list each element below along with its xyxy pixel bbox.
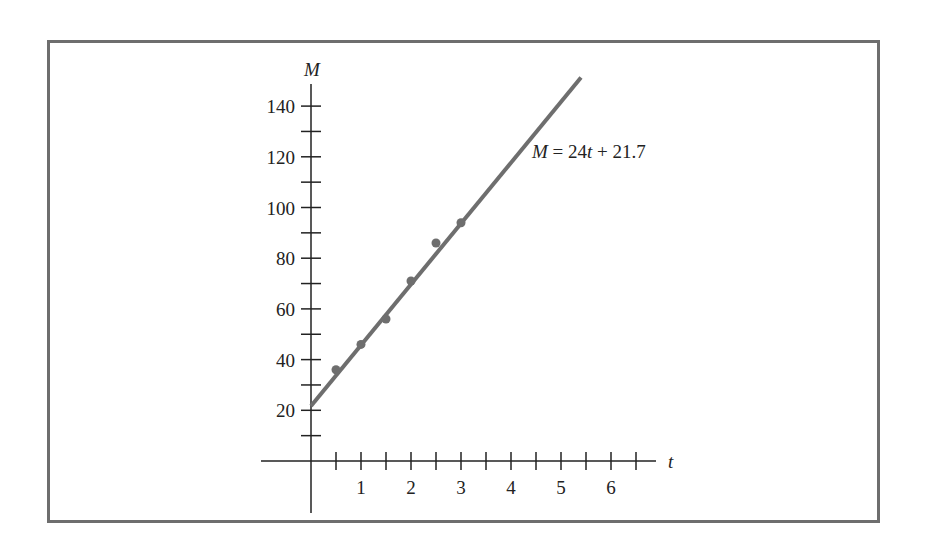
x-axis-label: t: [668, 451, 674, 472]
fit-line: [311, 77, 581, 406]
x-tick-label: 6: [606, 477, 616, 498]
data-point: [357, 340, 366, 349]
y-tick-label: 100: [267, 198, 296, 219]
y-axis-label: M: [303, 59, 321, 80]
data-point: [382, 315, 391, 324]
y-tick-label: 140: [267, 96, 296, 117]
equation-label: M = 24t + 21.7: [531, 141, 646, 162]
y-tick-label: 80: [276, 248, 295, 269]
regression-line: [311, 77, 581, 406]
data-point: [432, 238, 441, 247]
x-tick-label: 3: [456, 477, 466, 498]
y-tick-label: 120: [267, 147, 296, 168]
y-tick-label: 60: [276, 299, 295, 320]
x-tick-label: 4: [506, 477, 516, 498]
equation-m: M: [531, 141, 549, 162]
x-tick-label: 5: [556, 477, 566, 498]
data-point: [332, 365, 341, 374]
x-tick-label: 1: [356, 477, 366, 498]
line-fit-chart: 12345620406080100120140 M t M = 24t + 21…: [0, 0, 926, 557]
x-tick-label: 2: [406, 477, 416, 498]
data-point: [407, 277, 416, 286]
y-tick-label: 20: [276, 400, 295, 421]
equation-end: + 21.7: [592, 141, 645, 162]
y-tick-label: 40: [276, 350, 295, 371]
data-point: [457, 218, 466, 227]
equation-mid: = 24: [548, 141, 588, 162]
